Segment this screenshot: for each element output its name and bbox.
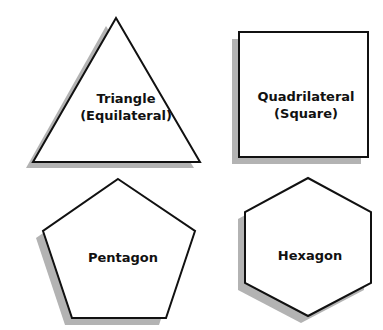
- triangle-label-line2: (Equilateral): [80, 107, 172, 124]
- hexagon-label: Hexagon: [278, 247, 342, 264]
- triangle-label: Triangle (Equilateral): [80, 90, 172, 124]
- square-label-line2: (Square): [257, 105, 354, 122]
- pentagon-label: Pentagon: [88, 249, 158, 266]
- triangle-label-line1: Triangle: [80, 90, 172, 107]
- hexagon-label-line1: Hexagon: [278, 247, 342, 264]
- square-label-line1: Quadrilateral: [257, 88, 354, 105]
- pentagon-label-line1: Pentagon: [88, 249, 158, 266]
- square-label: Quadrilateral (Square): [257, 88, 354, 122]
- shapes-diagram: [0, 0, 383, 330]
